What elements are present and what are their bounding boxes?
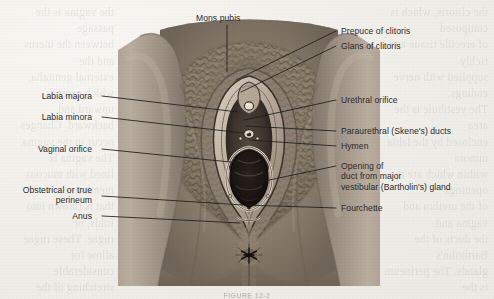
label-glans-of-clitoris: Glans of clitoris (341, 41, 401, 51)
label-labia-majora: Labia majora (0, 91, 92, 101)
label-labia-minora: Labia minora (0, 112, 92, 122)
label-bartholins-gland-duct: Opening of duct from major vestibular (B… (341, 161, 451, 192)
figure-caption: FIGURE 12-2 (0, 292, 494, 299)
label-mons-pubis: Mons pubis (196, 13, 240, 23)
label-urethral-orifice: Urethral orifice (341, 95, 398, 105)
label-anus: Anus (0, 211, 92, 221)
label-obstetrical-perineum: Obstetrical or true perineum (0, 185, 92, 206)
label-hymen: Hymen (341, 141, 368, 151)
label-prepuce-of-clitoris: Prepuce of clitoris (341, 26, 410, 36)
figure-root: the vagina is the passage between the ut… (0, 0, 494, 299)
label-vaginal-orifice: Vaginal orifice (0, 144, 92, 154)
label-fourchette: Fourchette (341, 203, 383, 213)
label-paraurethral-ducts: Paraurethral (Skene's) ducts (341, 126, 451, 136)
